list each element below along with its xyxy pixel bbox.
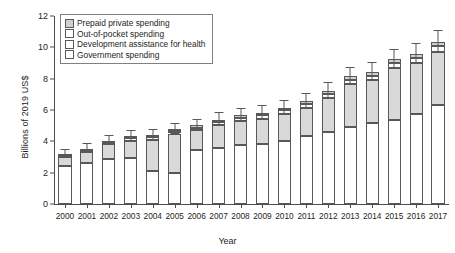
bar-segment bbox=[168, 134, 181, 174]
error-bar-cap bbox=[104, 135, 113, 136]
error-bar bbox=[174, 123, 175, 133]
bar-segment bbox=[322, 132, 335, 204]
x-tick-label: 2002 bbox=[100, 211, 118, 221]
legend-swatch-icon bbox=[65, 50, 74, 59]
bar-segment bbox=[102, 144, 115, 159]
bar-segment bbox=[190, 130, 203, 150]
error-bar-cap bbox=[280, 100, 289, 101]
legend-item: Prepaid private spending bbox=[65, 18, 206, 29]
legend-swatch-icon bbox=[65, 19, 74, 28]
x-tick-label: 2014 bbox=[363, 211, 381, 221]
legend-label: Out-of-pocket spending bbox=[77, 29, 164, 40]
error-bar bbox=[416, 43, 417, 63]
y-axis-title: Billions of 2019 US$ bbox=[20, 32, 30, 202]
bar-2013 bbox=[344, 16, 357, 204]
bar-segment bbox=[366, 123, 379, 204]
bar-2011 bbox=[300, 16, 313, 204]
error-bar-cap bbox=[214, 112, 223, 113]
error-bar-cap bbox=[280, 113, 289, 114]
y-tick-label: 0 bbox=[43, 199, 54, 209]
x-tick-mark bbox=[438, 204, 439, 208]
y-axis-line bbox=[54, 16, 55, 204]
error-bar-cap bbox=[170, 123, 179, 124]
x-tick-label: 2005 bbox=[165, 211, 183, 221]
error-bar-cap bbox=[236, 108, 245, 109]
y-tick-label: 2 bbox=[43, 168, 54, 178]
bar-segment bbox=[300, 108, 313, 136]
x-tick-mark bbox=[65, 204, 66, 208]
bar-segment bbox=[431, 52, 444, 104]
bar-2016 bbox=[410, 16, 423, 204]
x-tick-label: 2013 bbox=[341, 211, 359, 221]
error-bar-cap bbox=[434, 30, 443, 31]
x-tick-label: 2000 bbox=[56, 211, 74, 221]
error-bar-cap bbox=[412, 43, 421, 44]
x-tick-label: 2008 bbox=[231, 211, 249, 221]
error-bar bbox=[196, 119, 197, 130]
error-bar-cap bbox=[368, 62, 377, 63]
y-tick-label: 10 bbox=[38, 42, 54, 52]
x-tick-mark bbox=[328, 204, 329, 208]
bar-segment bbox=[168, 173, 181, 204]
bar-2010 bbox=[278, 16, 291, 204]
x-tick-label: 2006 bbox=[187, 211, 205, 221]
error-bar bbox=[328, 82, 329, 98]
error-bar-cap bbox=[60, 157, 69, 158]
x-tick-mark bbox=[284, 204, 285, 208]
bar-segment bbox=[388, 68, 401, 120]
x-tick-mark bbox=[306, 204, 307, 208]
legend-item: Out-of-pocket spending bbox=[65, 29, 206, 40]
error-bar bbox=[372, 62, 373, 80]
bar-segment bbox=[256, 144, 269, 204]
x-tick-mark bbox=[175, 204, 176, 208]
bar-segment bbox=[410, 63, 423, 114]
error-bar bbox=[86, 143, 87, 152]
x-tick-label: 2011 bbox=[297, 211, 315, 221]
x-tick-label: 2007 bbox=[209, 211, 227, 221]
bar-segment bbox=[344, 84, 357, 127]
error-bar bbox=[152, 129, 153, 139]
bar-2009 bbox=[256, 16, 269, 204]
legend-swatch-icon bbox=[65, 29, 74, 38]
error-bar-cap bbox=[126, 130, 135, 131]
error-bar-cap bbox=[126, 141, 135, 142]
bar-2017 bbox=[431, 16, 444, 204]
error-bar bbox=[350, 67, 351, 84]
error-bar bbox=[130, 130, 131, 140]
bar-2015 bbox=[388, 16, 401, 204]
error-bar bbox=[394, 49, 395, 68]
error-bar bbox=[262, 105, 263, 118]
x-tick-label: 2016 bbox=[407, 211, 425, 221]
error-bar-cap bbox=[390, 68, 399, 69]
error-bar-cap bbox=[104, 144, 113, 145]
error-bar-cap bbox=[346, 84, 355, 85]
bar-segment bbox=[431, 105, 444, 204]
x-tick-mark bbox=[416, 204, 417, 208]
x-tick-mark bbox=[394, 204, 395, 208]
bar-segment bbox=[80, 152, 93, 163]
error-bar-cap bbox=[170, 133, 179, 134]
bar-segment bbox=[146, 140, 159, 171]
bar-2012 bbox=[322, 16, 335, 204]
bar-segment bbox=[278, 114, 291, 141]
error-bar-cap bbox=[148, 139, 157, 140]
bar-segment bbox=[388, 120, 401, 204]
x-axis-line bbox=[54, 204, 449, 205]
bar-segment bbox=[124, 141, 137, 158]
bar-2014 bbox=[366, 16, 379, 204]
error-bar-cap bbox=[302, 93, 311, 94]
error-bar-cap bbox=[302, 107, 311, 108]
error-bar-cap bbox=[236, 121, 245, 122]
x-tick-mark bbox=[109, 204, 110, 208]
bar-segment bbox=[102, 159, 115, 204]
error-bar-cap bbox=[434, 52, 443, 53]
error-bar bbox=[64, 149, 65, 157]
x-axis-title: Year bbox=[0, 236, 455, 246]
bar-segment bbox=[212, 148, 225, 204]
bar-2008 bbox=[234, 16, 247, 204]
error-bar-cap bbox=[258, 105, 267, 106]
error-bar bbox=[240, 108, 241, 121]
bar-segment bbox=[278, 141, 291, 204]
bar-segment bbox=[322, 98, 335, 132]
bar-2007 bbox=[212, 16, 225, 204]
